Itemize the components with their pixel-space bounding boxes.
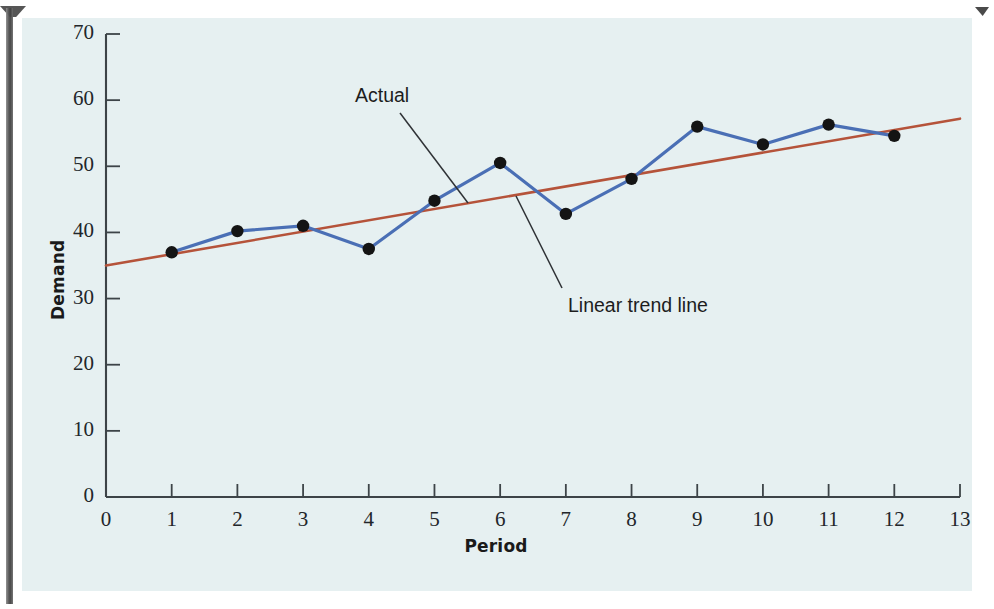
x-tick-label: 11	[809, 507, 849, 532]
data-point-marker	[625, 173, 637, 185]
x-axis-ticks	[172, 484, 960, 497]
y-tick-label: 70	[58, 20, 94, 45]
x-tick-label: 10	[743, 507, 783, 532]
x-tick-label: 1	[152, 507, 192, 532]
actual-line-path	[172, 125, 895, 253]
data-point-marker	[757, 138, 769, 150]
y-tick-label: 30	[58, 285, 94, 310]
trend-leader-line	[516, 196, 562, 288]
linear-trend-line	[106, 119, 960, 266]
x-tick-label: 0	[86, 507, 126, 532]
x-tick-label: 12	[874, 507, 914, 532]
trend-line-path	[106, 119, 960, 266]
x-tick-label: 8	[612, 507, 652, 532]
x-tick-label: 2	[217, 507, 257, 532]
x-tick-label: 5	[414, 507, 454, 532]
trend-annotation-label: Linear trend line	[568, 294, 708, 317]
y-tick-label: 10	[58, 417, 94, 442]
y-tick-label: 60	[58, 86, 94, 111]
x-tick-label: 6	[480, 507, 520, 532]
data-point-marker	[560, 208, 572, 220]
actual-demand-line	[172, 125, 895, 253]
y-tick-label: 0	[58, 483, 94, 508]
chart-axes	[106, 34, 960, 497]
y-tick-label: 50	[58, 152, 94, 177]
actual-leader-line	[400, 113, 468, 203]
actual-annotation-label: Actual	[355, 84, 409, 107]
data-point-marker	[494, 157, 506, 169]
x-tick-label: 3	[283, 507, 323, 532]
x-tick-label: 13	[940, 507, 980, 532]
data-point-marker	[691, 120, 703, 132]
x-tick-label: 4	[349, 507, 389, 532]
figure-container: Actual Linear trend line Period Demand 0…	[0, 0, 994, 609]
data-point-marker	[165, 246, 177, 258]
y-tick-label: 40	[58, 218, 94, 243]
data-point-marker	[428, 194, 440, 206]
data-point-marker	[363, 243, 375, 255]
data-point-marker	[297, 220, 309, 232]
data-point-marker	[888, 130, 900, 142]
y-tick-label: 20	[58, 351, 94, 376]
data-point-marker	[822, 118, 834, 130]
data-point-marker	[231, 225, 243, 237]
x-axis-title: Period	[464, 536, 527, 556]
x-tick-label: 9	[677, 507, 717, 532]
x-tick-label: 7	[546, 507, 586, 532]
